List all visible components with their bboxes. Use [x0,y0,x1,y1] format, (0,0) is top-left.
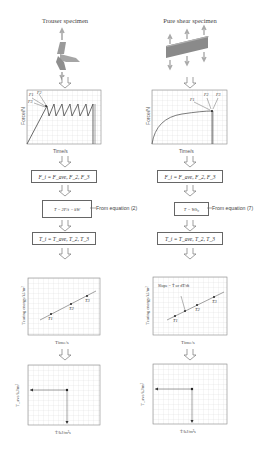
tearing-values-box-left: T_i = T_ave, T_2, T_3 [32,232,96,245]
force-ylabel-right: Force/N [145,101,151,131]
t3-label: T3 [85,298,90,303]
flow-arrow-icon [58,185,72,197]
f1-label: F1 [29,92,33,97]
flow-arrow-icon [183,248,197,260]
trouser-specimen-icon [40,26,90,76]
tave-ylabel-right: T_ave/kJ/m² [140,380,145,410]
flow-arrow-icon [58,77,72,89]
pure-shear-specimen-icon [162,26,218,76]
time-xlabel-right: Time/s [179,148,194,154]
flow-arrow-icon [183,220,197,232]
f2-label: F2 [37,90,41,95]
flow-arrow-icon [183,185,197,197]
force-values-box-left: F_i = F_ave, F_2, F_3 [31,170,97,183]
f1-label-right: F1 [190,97,194,102]
tdot-xlabel-right: Ṫ/kJ/m²s [180,429,196,434]
pure-shear-tearing-chart: Slope = Ṫ or dT/dt T1 T2 T3 [153,277,227,335]
time-xlabel-left-2: Time/s [55,340,69,345]
time-xlabel-left: Time/s [53,148,68,154]
f3-label: F3 [28,99,32,104]
tave-ylabel-left: T_ave/kJ/m² [15,381,20,411]
trouser-specimen-title: Trouser specimen [30,17,100,24]
tearing-ylabel-right: Tearing energy/kJ/m² [145,278,150,334]
t1-label: T1 [48,316,53,321]
equation-note-right: From equation (7) [212,205,253,211]
t2-label-right: T2 [195,307,200,312]
force-values-box-right: F_i = F_ave, F_2, F_3 [157,170,223,183]
flow-arrow-icon [183,349,197,361]
f3-label-right: F3 [216,92,220,97]
energy-equation-box-left: T = 2F/t − kW [42,200,92,218]
t2-label: T2 [69,306,74,311]
slope-label: Slope = Ṫ or dT/dt [158,283,189,288]
f2-label-right: F2 [204,92,208,97]
t3-label-right: T3 [212,299,217,304]
t1-label-right: T1 [173,318,178,323]
tdot-xlabel-left: Ṫ/kJ/m²s [55,430,71,435]
energy-equation-box-right: T = Wh₀ [174,202,209,216]
equation-note-left: From equation (2) [96,205,137,211]
trouser-final-chart [28,365,100,425]
tearing-values-box-right: T_i = T_ave, T_2, T_3 [157,232,223,245]
time-xlabel-right-2: Time/s [181,340,195,345]
tearing-ylabel-left: Tearing energy/kJ/m² [21,278,26,334]
flow-arrow-icon [58,220,72,232]
force-ylabel-left: Force/N [20,101,26,131]
flow-arrow-icon [58,248,72,260]
flow-arrow-icon [183,77,197,89]
flow-arrow-icon [58,349,72,361]
trouser-force-chart: F1 F2 F3 [27,90,101,144]
pure-shear-final-chart [153,364,227,424]
pure-shear-force-chart: F1 F2 F3 [152,90,227,144]
flow-arrow-icon [183,156,197,168]
trouser-tearing-chart: T1 T2 T3 [28,278,100,335]
pure-shear-specimen-title: Pure shear specimen [152,17,228,24]
flow-arrow-icon [58,156,72,168]
